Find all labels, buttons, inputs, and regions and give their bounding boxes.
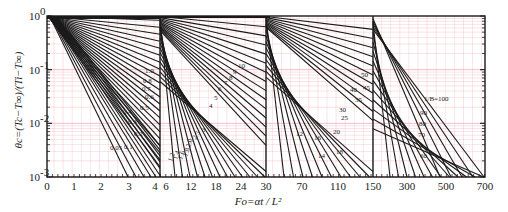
curve-label: 0.05	[110, 144, 123, 152]
curve-label: 40	[350, 86, 358, 94]
curve-label: 0.8	[143, 77, 152, 85]
curve-label: 0.7	[142, 85, 151, 93]
x-tick-label: 70	[297, 180, 309, 192]
curve-label: 10	[238, 62, 246, 70]
x-tick-label: 1	[71, 180, 77, 192]
x-axis-title: Fo=αt / L²	[234, 195, 282, 207]
x-tick-label: 2	[98, 180, 104, 192]
curve-label: 6	[218, 85, 222, 93]
y-tick-exponent: -1	[40, 59, 49, 71]
curve-label: 1.0	[145, 67, 154, 75]
curve-label: 18	[336, 148, 344, 156]
curve-label: 60	[420, 152, 428, 160]
curve-label: 50	[361, 71, 369, 79]
y-tick-label: 10	[29, 117, 41, 129]
curve-label: 20	[333, 128, 341, 136]
curve-label: 45	[363, 84, 371, 92]
curve-label: 0.5	[140, 104, 149, 112]
y-tick-exponent: 0	[40, 5, 46, 17]
y-tick-label: 10	[29, 171, 41, 183]
x-tick-label: 500	[438, 180, 455, 192]
curve-label: 0.1	[124, 143, 133, 151]
curve-label: 70	[418, 131, 426, 139]
x-tick-label: 6	[163, 180, 169, 192]
curve-label: 30	[339, 106, 347, 114]
curve-label: 0.2	[134, 130, 143, 138]
y-axis-title: θc=(Tc−T∞)/(Ti−T∞)	[12, 51, 25, 148]
x-tick-label: 150	[365, 180, 382, 192]
curve-label: 80	[419, 120, 427, 128]
x-tick-label: 700	[477, 180, 494, 192]
curve-label: 25	[341, 114, 349, 122]
curve-label: 35	[355, 96, 363, 104]
curve-label: 1/B=100	[424, 95, 449, 103]
curve-label: 7	[224, 79, 228, 87]
y-tick-exponent: -2	[40, 112, 49, 124]
curve-label: 9	[233, 68, 237, 76]
x-tick-label: 4	[152, 180, 158, 192]
curve-label: 16	[314, 134, 322, 142]
y-tick-exponent: -3	[40, 166, 50, 178]
x-tick-label: 300	[399, 180, 416, 192]
x-tick-label: 12	[186, 180, 197, 192]
curve-label: 0.3	[128, 118, 137, 126]
curve-label: 5	[214, 94, 218, 102]
x-tick-label: 3	[126, 180, 132, 192]
x-tick-label: 30	[261, 180, 273, 192]
x-tick-label: 18	[211, 180, 223, 192]
curve-label: 0.4	[123, 108, 132, 116]
x-tick-label: 110	[330, 180, 347, 192]
heisler-chart: 0.050.10.20.30.40.50.60.70.81.01.21.41.6…	[0, 0, 508, 212]
curve-label: 0.6	[145, 93, 154, 101]
curve-label: 4	[209, 102, 213, 110]
y-tick-label: 10	[29, 64, 41, 76]
y-tick-label: 10	[29, 10, 41, 22]
curve-label: 90	[420, 109, 428, 117]
x-tick-label: 24	[236, 180, 248, 192]
curve-label: 14	[318, 152, 326, 160]
curve-label: 3	[202, 126, 206, 134]
x-tick-label: 0	[44, 180, 50, 192]
curve-label: 12	[296, 130, 304, 138]
